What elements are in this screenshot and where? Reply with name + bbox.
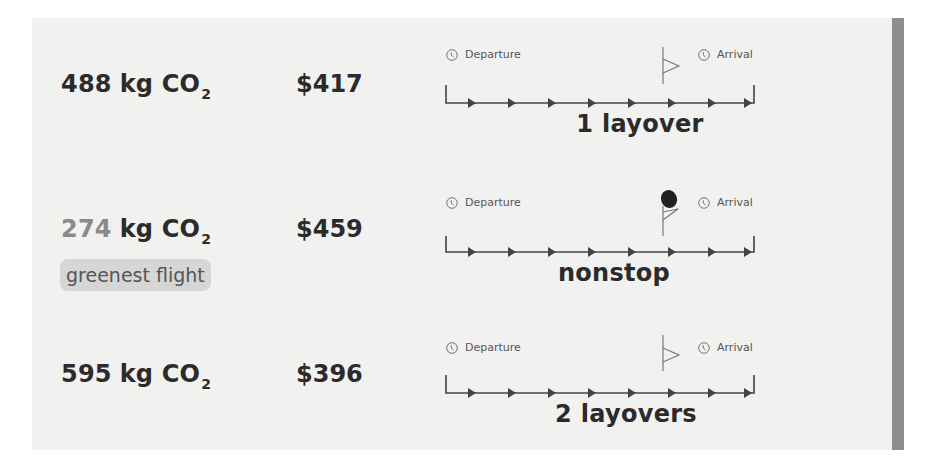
emission-value: 488kg CO2: [61, 70, 211, 102]
emission-value: 595kg CO2: [61, 360, 211, 392]
flag-icon: [663, 47, 679, 84]
timeline-graphic: [442, 42, 782, 112]
timeline-graphic: [442, 188, 782, 258]
stops-label: 1 layover: [470, 110, 810, 138]
emission-number: 595: [61, 360, 112, 388]
flight-row-2[interactable]: 274kg CO2 $459 greenest flight Departure…: [32, 163, 892, 303]
flag-icon: [658, 188, 679, 236]
greenest-flight-badge: greenest flight: [60, 259, 211, 291]
emission-subscript: 2: [201, 376, 211, 392]
price: $396: [296, 360, 363, 388]
flight-timeline: Departure Arrival 2 layovers: [442, 333, 782, 443]
emission-value: 274kg CO2: [61, 215, 211, 247]
emission-unit: kg CO: [120, 70, 201, 98]
flight-timeline: Departure Arrival 1 layover: [442, 42, 782, 152]
scrollbar[interactable]: [892, 18, 904, 450]
flight-row-1[interactable]: 488kg CO2 $417 Departure Arrival: [32, 18, 892, 158]
stops-label: nonstop: [444, 259, 784, 287]
emission-subscript: 2: [201, 231, 211, 247]
emission-number: 488: [61, 70, 112, 98]
flight-timeline: Departure Arrival nonstop: [442, 188, 782, 298]
emission-subscript: 2: [201, 86, 211, 102]
flight-results-panel: 488kg CO2 $417 Departure Arrival: [32, 18, 892, 450]
flight-row-3[interactable]: 595kg CO2 $396 Departure Arrival: [32, 308, 892, 448]
price: $417: [296, 70, 363, 98]
stops-label: 2 layovers: [456, 400, 796, 428]
flag-icon: [663, 335, 679, 371]
emission-number: 274: [61, 215, 112, 243]
price: $459: [296, 215, 363, 243]
emission-unit: kg CO: [120, 215, 201, 243]
timeline-graphic: [442, 333, 782, 403]
emission-unit: kg CO: [120, 360, 201, 388]
